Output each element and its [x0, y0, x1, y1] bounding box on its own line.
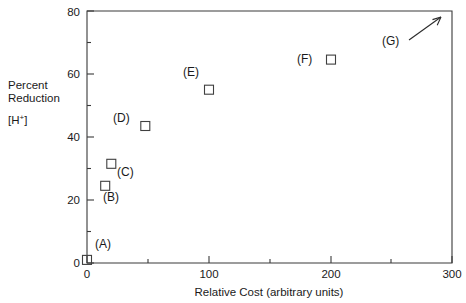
- data-label-g: (G): [382, 34, 399, 48]
- data-markers: [83, 55, 336, 264]
- y-tick-label-0: 0: [74, 257, 80, 269]
- y-axis-title: Percent Reduction [H+]: [8, 79, 60, 126]
- data-label-b: (B): [103, 190, 119, 204]
- y-axis-title-line1: Percent: [8, 79, 48, 91]
- data-point-b[interactable]: [101, 181, 110, 190]
- y-tick-label-40: 40: [67, 131, 80, 143]
- x-tick-labels: 0 100 200 300: [84, 268, 462, 280]
- x-tick-label-100: 100: [199, 268, 218, 280]
- x-tick-label-0: 0: [84, 268, 90, 280]
- data-point-e[interactable]: [205, 85, 214, 94]
- x-tick-label-300: 300: [442, 268, 461, 280]
- y-axis-ticks: [87, 11, 94, 263]
- data-label-a: (A): [95, 237, 111, 251]
- x-axis-ticks: [87, 256, 452, 263]
- chart-container: 0 20 40 60 80 0 100 200 300 Relative Cos…: [0, 0, 466, 303]
- plot-frame: [87, 11, 452, 263]
- data-label-f: (F): [297, 52, 312, 66]
- data-point-f[interactable]: [327, 55, 336, 64]
- y-axis-title-line2: Reduction: [8, 92, 60, 104]
- y-tick-label-60: 60: [67, 68, 80, 80]
- x-axis-title-text: Relative Cost (arbitrary units): [195, 286, 344, 298]
- annotation-arrow-g: [409, 17, 441, 40]
- y-tick-label-20: 20: [67, 194, 80, 206]
- y-axis-title-bracket-open: [H: [8, 114, 20, 126]
- y-axis-title-line3: [H+]: [8, 113, 27, 126]
- x-tick-label-200: 200: [321, 268, 340, 280]
- data-point-labels: (A) (B) (C) (D) (E) (F) (G): [95, 34, 399, 251]
- y-tick-labels: 0 20 40 60 80: [67, 6, 80, 269]
- y-axis-title-bracket-close: ]: [24, 114, 27, 126]
- data-point-c[interactable]: [107, 159, 116, 168]
- scatter-plot: 0 20 40 60 80 0 100 200 300 Relative Cos…: [0, 0, 466, 303]
- data-label-d: (D): [113, 111, 130, 125]
- data-label-e: (E): [183, 65, 199, 79]
- y-tick-label-80: 80: [67, 6, 80, 18]
- data-point-d[interactable]: [141, 122, 150, 131]
- data-label-c: (C): [117, 165, 134, 179]
- x-axis-title: Relative Cost (arbitrary units): [195, 286, 344, 298]
